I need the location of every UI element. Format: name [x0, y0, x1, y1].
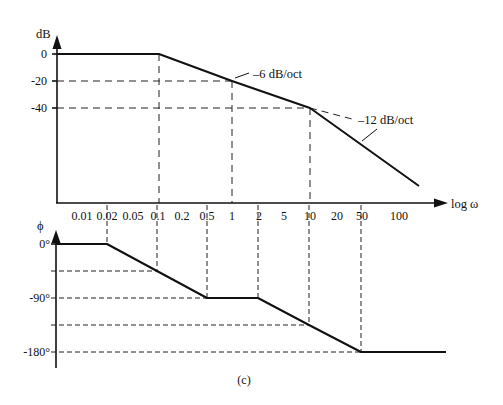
ytick-minus20: -20 — [31, 74, 47, 88]
phase-curve — [56, 244, 446, 352]
ytick-minus40: -40 — [31, 101, 47, 115]
annotation-6db-oct: –6 dB/oct — [252, 67, 302, 81]
leader-6db — [235, 73, 249, 78]
ytick-0: 0 — [41, 47, 47, 61]
xtick-2: 2 — [256, 209, 262, 223]
x-axis-label: log ω — [451, 197, 478, 211]
ytick-minus180deg: -180° — [23, 345, 50, 359]
phase-plot: ϕ 0° -90° -180° — [23, 205, 446, 368]
xtick-50: 50 — [356, 209, 368, 223]
magnitude-plot: dB 0 -20 -40 –6 dB/oct –12 dB/oct — [31, 27, 448, 208]
x-tick-labels: 0.01 0.02 0.05 0.1 0.2 0.5 1 2 5 10 20 5… — [72, 209, 409, 223]
xtick-10: 10 — [304, 209, 316, 223]
xtick-0.1: 0.1 — [151, 209, 166, 223]
leader-12db — [362, 129, 377, 141]
phase-axis-arrow-icon — [52, 230, 61, 243]
xtick-0.01: 0.01 — [72, 209, 93, 223]
ytick-0deg: 0° — [39, 237, 50, 251]
figure-caption: (c) — [237, 373, 250, 387]
y-axis-arrow-icon — [53, 35, 62, 49]
phase-axis-label: ϕ — [37, 219, 44, 233]
annotation-12db-oct: –12 dB/oct — [357, 113, 414, 127]
xtick-0.05: 0.05 — [123, 209, 144, 223]
xtick-1: 1 — [229, 209, 235, 223]
xtick-0.2: 0.2 — [175, 209, 190, 223]
xtick-5: 5 — [281, 209, 287, 223]
xtick-100: 100 — [390, 209, 408, 223]
bode-diagram: dB 0 -20 -40 –6 dB/oct –12 dB/oct 0.01 0… — [0, 0, 503, 405]
magnitude-axis-label: dB — [36, 27, 51, 41]
ytick-minus90deg: -90° — [29, 291, 50, 305]
x-axis-arrow-icon — [434, 199, 448, 208]
xtick-20: 20 — [331, 209, 343, 223]
